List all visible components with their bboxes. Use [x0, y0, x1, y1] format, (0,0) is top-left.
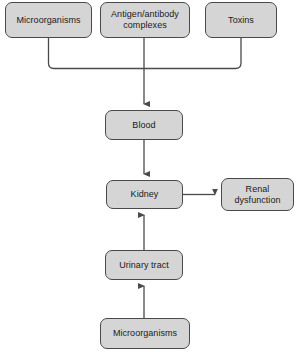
node-kidney[interactable]: Kidney — [106, 180, 183, 209]
connector-toxins-to-junction — [144, 38, 241, 69]
connector-microorganisms-top-to-junction — [49, 38, 145, 69]
node-urinary-tract[interactable]: Urinary tract — [105, 250, 183, 280]
node-label: Antigen/antibody complexes — [104, 9, 186, 31]
node-toxins[interactable]: Toxins — [205, 2, 277, 38]
node-label: Microorganisms — [104, 328, 186, 339]
diagram-canvas: Microorganisms Antigen/antibody complexe… — [0, 0, 299, 356]
node-label: Urinary tract — [109, 260, 179, 271]
node-microorganisms-top[interactable]: Microorganisms — [5, 2, 92, 38]
node-renal-dysfunction[interactable]: Renal dysfunction — [221, 178, 294, 211]
node-label: Kidney — [110, 189, 179, 200]
node-microorganisms-bottom[interactable]: Microorganisms — [100, 318, 190, 349]
node-label: Renal dysfunction — [225, 184, 290, 206]
node-blood[interactable]: Blood — [105, 110, 183, 140]
node-label: Blood — [109, 120, 179, 131]
node-antigen-antibody-complexes[interactable]: Antigen/antibody complexes — [100, 2, 190, 38]
node-label: Toxins — [209, 15, 273, 26]
node-label: Microorganisms — [9, 15, 88, 26]
